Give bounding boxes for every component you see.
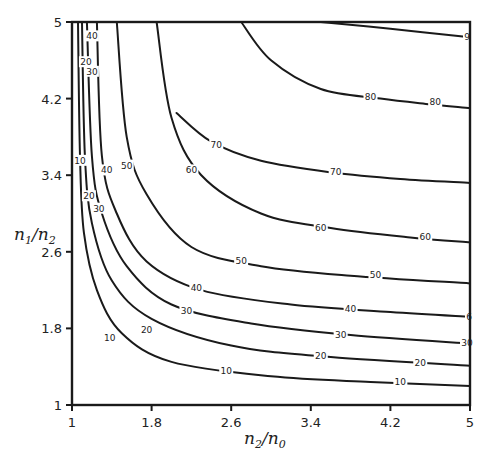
contour-label: 10 [220,366,232,376]
contour-line-10 [78,22,470,386]
x-tick-label: 4.2 [380,415,401,430]
x-tick-label: 3.4 [300,415,321,430]
contour-label: 50 [370,270,382,280]
contour-label: 70 [211,140,223,150]
y-tick-label: 1 [54,398,62,413]
contour-label: 40 [86,31,98,41]
contour-label: 10 [74,156,86,166]
x-tick-label: 1 [68,415,76,430]
contour-label: 60 [419,232,431,242]
contour-label: 30 [335,330,347,340]
contour-chart: 4020301040506020307080807060605050404030… [0,0,490,468]
contour-label: 30 [181,306,193,316]
contour-label: 60 [315,223,327,233]
contour-label: 50 [235,256,247,266]
contour-labels: 4020301040506020307080807060605050404030… [73,30,474,387]
contour-line-30 [87,22,470,344]
x-tick-label: 5 [466,415,474,430]
contour-lines [78,22,470,386]
contour-label: 30 [86,67,98,77]
contour-label: 20 [83,191,95,201]
y-axis-ticks: 11.82.63.44.25 [41,15,72,413]
contour-label: 80 [365,92,377,102]
contour-label: 10 [104,333,116,343]
plot-frame [72,22,470,405]
x-axis-label: n2/n0 [244,428,286,451]
contour-label: 40 [191,283,203,293]
contour-label: 30 [93,204,105,214]
contour-label: 60 [186,165,198,175]
contour-label: 80 [429,97,441,107]
contour-label: 20 [415,358,427,368]
contour-label: 20 [315,351,327,361]
contour-label: 40 [345,304,357,314]
y-tick-label: 2.6 [41,245,62,260]
contour-label: 70 [330,167,342,177]
y-tick-label: 4.2 [41,92,62,107]
y-axis-label: n1/n2 [14,224,56,247]
x-tick-label: 2.6 [221,415,242,430]
x-tick-label: 1.8 [141,415,162,430]
contour-line-50 [117,22,470,283]
contour-line-60 [157,22,470,242]
y-tick-label: 5 [54,15,62,30]
contour-line-80 [241,22,470,108]
y-tick-label: 1.8 [41,321,62,336]
contour-label: 40 [101,165,113,175]
contour-label: 50 [121,161,133,171]
contour-label: 30 [461,338,473,348]
y-tick-label: 3.4 [41,168,62,183]
contour-line-40 [97,22,470,317]
contour-line-90 [321,22,470,37]
contour-label: 20 [80,57,92,67]
contour-label: 20 [141,325,153,335]
contour-label: 10 [395,377,407,387]
x-axis-ticks: 11.82.63.44.25 [68,405,474,430]
